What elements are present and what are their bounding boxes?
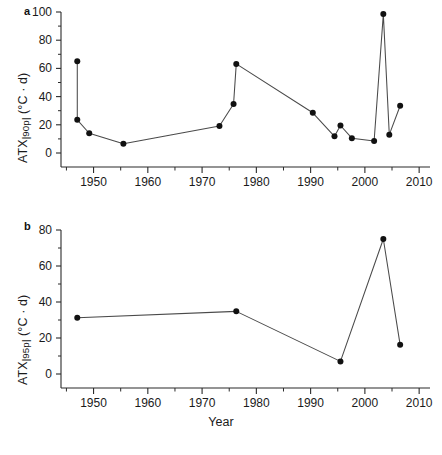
figure-container: a ATX|90p| (°C · d) 02040608010019501960…: [0, 0, 442, 455]
x-tick-label: 2000: [339, 397, 391, 409]
data-point-marker: [120, 141, 126, 147]
data-point-marker: [386, 132, 392, 138]
x-axis-title: Year: [0, 415, 442, 429]
x-tick-label: 1980: [230, 397, 282, 409]
y-tick-label: 0: [0, 368, 52, 380]
y-tick-label: 80: [0, 34, 52, 46]
panel-a-plot: [0, 0, 442, 200]
data-point-marker: [331, 133, 337, 139]
chart-panel-b: b ATX|95p| (°C · d) Year 020406080195019…: [0, 215, 442, 455]
data-series-line: [77, 239, 400, 361]
data-point-marker: [74, 315, 80, 321]
x-tick-label: 2000: [339, 176, 391, 188]
x-tick-label: 1970: [176, 397, 228, 409]
x-tick-label: 1960: [122, 397, 174, 409]
x-tick-label: 1980: [230, 176, 282, 188]
x-tick-label: 2010: [393, 397, 442, 409]
data-point-marker: [216, 123, 222, 129]
x-tick-label: 1990: [285, 397, 337, 409]
data-point-marker: [380, 236, 386, 242]
data-point-marker: [231, 101, 237, 107]
data-point-marker: [233, 308, 239, 314]
data-point-marker: [371, 138, 377, 144]
data-point-marker: [74, 117, 80, 123]
y-tick-label: 60: [0, 62, 52, 74]
data-point-marker: [86, 130, 92, 136]
y-tick-label: 40: [0, 91, 52, 103]
chart-panel-a: a ATX|90p| (°C · d) 02040608010019501960…: [0, 0, 442, 200]
x-tick-label: 1950: [68, 397, 120, 409]
data-point-marker: [380, 11, 386, 17]
data-point-marker: [397, 342, 403, 348]
x-tick-label: 2010: [393, 176, 442, 188]
x-tick-label: 1960: [122, 176, 174, 188]
y-tick-label: 40: [0, 296, 52, 308]
x-tick-label: 1990: [285, 176, 337, 188]
y-tick-label: 20: [0, 332, 52, 344]
y-tick-label: 80: [0, 224, 52, 236]
data-point-marker: [233, 61, 239, 67]
y-tick-label: 60: [0, 260, 52, 272]
x-tick-label: 1950: [68, 176, 120, 188]
data-point-marker: [337, 358, 343, 364]
data-point-marker: [349, 135, 355, 141]
x-tick-label: 1970: [176, 176, 228, 188]
y-tick-label: 100: [0, 6, 52, 18]
data-series-line: [77, 14, 400, 144]
data-point-marker: [310, 110, 316, 116]
data-point-marker: [397, 103, 403, 109]
y-tick-label: 20: [0, 119, 52, 131]
y-tick-label: 0: [0, 147, 52, 159]
data-point-marker: [74, 58, 80, 64]
data-point-marker: [337, 123, 343, 129]
